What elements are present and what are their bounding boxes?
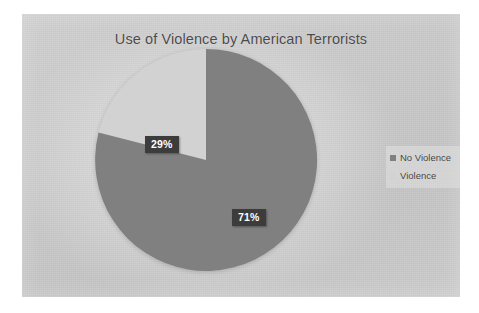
legend-swatch-icon-no-violence xyxy=(390,155,396,161)
legend-label-no-violence: No Violence xyxy=(400,152,451,163)
legend-item-violence[interactable]: Violence xyxy=(390,168,460,183)
legend-label-violence: Violence xyxy=(400,170,436,181)
chart-panel: Use of Violence by American Terrorists 2… xyxy=(22,14,460,297)
pie-chart xyxy=(94,48,318,272)
data-label-no-violence: 71% xyxy=(232,209,266,226)
legend-item-no-violence[interactable]: No Violence xyxy=(390,150,460,165)
data-label-violence: 29% xyxy=(145,136,179,153)
pie-chart-svg xyxy=(94,48,318,272)
chart-screenshot: Use of Violence by American Terrorists 2… xyxy=(0,0,479,313)
legend-swatch-icon-violence xyxy=(390,173,396,179)
chart-legend: No Violence Violence xyxy=(386,146,460,188)
page-title: Use of Violence by American Terrorists xyxy=(22,30,460,48)
